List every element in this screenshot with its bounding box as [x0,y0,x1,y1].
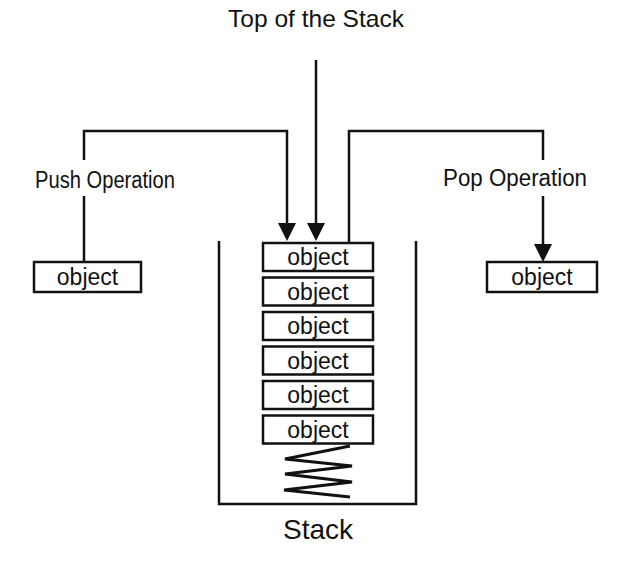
pop-object-label: object [511,264,573,290]
stack-item: object [263,381,373,409]
spring-icon [284,446,352,497]
stack-label: Stack [283,514,354,545]
stack-item-label: object [287,382,349,408]
stack-item: object [263,416,373,444]
stack-item: object [263,278,373,306]
stack-item: object [263,347,373,375]
push-object-label: object [57,264,119,290]
stack-items: object object object object object objec… [263,243,373,444]
stack-item: object [263,312,373,340]
pop-connector [349,131,552,262]
top-of-stack-arrow [307,60,325,241]
stack-item-label: object [287,244,349,270]
pop-object-box: object [487,262,597,292]
top-of-stack-label: Top of the Stack [228,5,405,32]
push-operation-label: Push Operation [35,167,175,193]
stack-item-label: object [287,348,349,374]
stack-diagram: Top of the Stack Push Operation Pop Oper… [0,0,626,567]
pop-operation-label: Pop Operation [443,165,587,191]
push-object-box: object [34,262,141,292]
stack-item: object [263,243,373,271]
stack-item-label: object [287,313,349,339]
stack-item-label: object [287,279,349,305]
stack-item-label: object [287,417,349,443]
